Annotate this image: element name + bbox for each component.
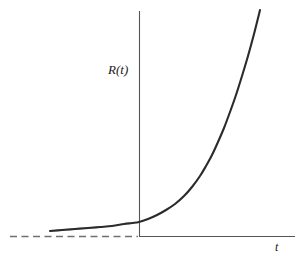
exponential-growth-figure: R(t) t [0,0,305,260]
y-axis-label: R(t) [108,63,128,76]
figure-background [0,0,305,260]
plot-canvas [0,0,305,260]
x-axis-label: t [275,241,278,253]
